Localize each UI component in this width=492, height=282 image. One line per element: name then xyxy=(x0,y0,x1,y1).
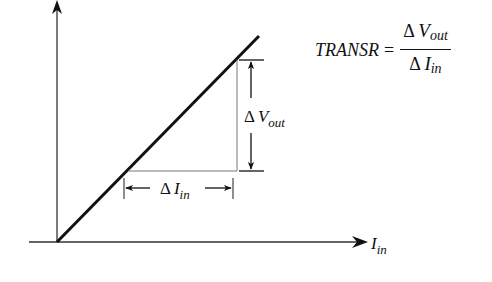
transfer-curve-line xyxy=(57,36,259,242)
formula-numerator: Δ Vout xyxy=(400,21,451,50)
formula-fraction: Δ Vout Δ Iin xyxy=(400,21,451,79)
transresistance-formula: TRANSR = Δ Vout Δ Iin xyxy=(315,22,451,78)
delta-iin-label: ΔIin xyxy=(160,179,190,202)
denominator-sub: in xyxy=(431,61,442,76)
delta-vout-dimension: ΔVout xyxy=(239,60,285,171)
formula-name: TRANSR xyxy=(315,40,379,61)
numerator-sub: out xyxy=(430,28,448,43)
numerator-main: V xyxy=(418,20,430,41)
denominator-delta: Δ xyxy=(409,54,420,74)
delta-iin-dimension: ΔIin xyxy=(124,178,233,202)
x-axis-label: Iin xyxy=(370,234,387,257)
x-axis: Iin xyxy=(29,234,387,257)
delta-vout-label: ΔVout xyxy=(244,107,285,130)
numerator-delta: Δ xyxy=(403,21,414,41)
y-axis xyxy=(52,0,62,242)
formula-denominator: Δ Iin xyxy=(409,50,441,79)
formula-equals: = xyxy=(384,40,394,61)
